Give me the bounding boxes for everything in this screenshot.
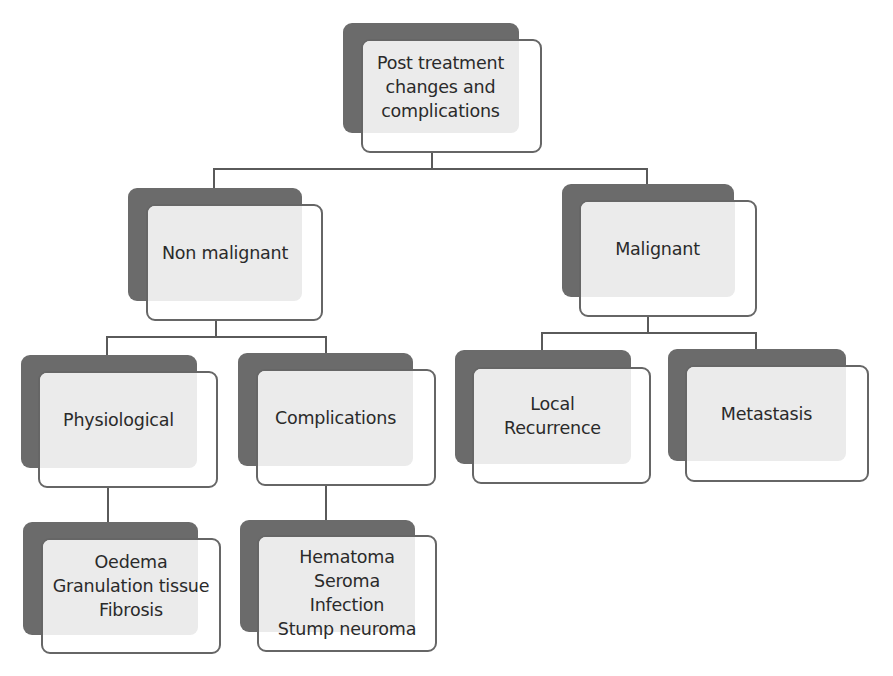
connector-malignant-horizontal: [541, 332, 757, 334]
node-label: Physiological: [40, 373, 197, 467]
node-label: Local Recurrence: [474, 369, 631, 463]
node-label: Malignant: [581, 202, 734, 296]
node-label: Hematoma Seroma Infection Stump neuroma: [258, 537, 436, 649]
node-label: Metastasis: [687, 367, 846, 461]
connector-root-horizontal: [213, 168, 648, 170]
node-label: Post treatment changes and complications: [363, 41, 518, 133]
connector-non-malignant-horizontal: [106, 336, 327, 338]
connector-to-non-malignant: [213, 168, 215, 189]
connector-to-complications: [325, 336, 327, 354]
connector-to-physiological: [106, 336, 108, 356]
connector-to-metastasis: [755, 332, 757, 350]
connector-complications-to-examples: [325, 484, 327, 521]
node-label: Non malignant: [148, 206, 302, 300]
connector-to-malignant: [646, 168, 648, 185]
connector-physiological-to-examples: [107, 486, 109, 523]
node-label: Oedema Granulation tissue Fibrosis: [42, 541, 220, 631]
node-label: Complications: [258, 371, 413, 465]
connector-to-local-recurrence: [541, 332, 543, 351]
